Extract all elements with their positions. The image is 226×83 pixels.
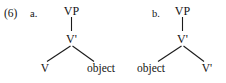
example-number: (6) [4,8,17,20]
syntax-tree-figure: (6) a. VP V' V object b. VP V' object V' [0,0,226,83]
tree-a-branch-right [73,46,95,62]
tree-b-terminal-object: object [137,63,165,75]
tree-a-terminal-v: V [41,63,49,75]
tree-b-terminal-vbar: V' [202,63,212,75]
tree-b-node-vbar: V' [177,33,188,45]
tree-a-branch-left [47,46,71,62]
tree-a-node-vbar: V' [66,33,77,45]
tree-a-terminal-object: object [87,63,115,75]
tree-b-branch-left [158,46,182,62]
tree-a-node-vp: VP [64,5,80,17]
tree-b-branch-right [184,46,205,62]
tree-a-letter: a. [30,9,37,20]
tree-b-letter: b. [152,9,160,20]
tree-b-node-vp: VP [175,5,191,17]
